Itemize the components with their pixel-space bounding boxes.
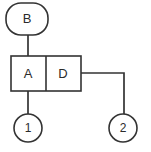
node-b-label: B [23,11,32,26]
node-d-label: D [58,66,67,81]
node-two-label: 2 [120,121,127,135]
node-one-label: 1 [25,121,32,135]
diagram-canvas: B A D 1 2 [0,0,151,152]
node-ad[interactable]: A D [11,56,81,91]
node-one[interactable]: 1 [14,114,42,142]
node-a-label: A [24,66,33,81]
edge-d-to-two [81,73,124,114]
node-b[interactable]: B [6,3,48,35]
diagram-svg: B A D 1 2 [0,0,151,152]
node-two[interactable]: 2 [109,114,137,142]
